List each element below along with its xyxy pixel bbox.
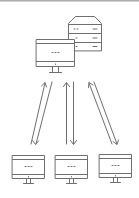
network-diagram — [0, 0, 139, 198]
connection-arrows — [31, 82, 119, 145]
client-monitor-icon-2 — [56, 156, 88, 184]
main-monitor-icon — [37, 40, 75, 73]
client-monitor-icon-3 — [100, 155, 132, 183]
client-monitor-icon-1 — [13, 156, 45, 184]
arrow-down-right — [94, 82, 117, 144]
arrow-up-right — [89, 83, 112, 144]
